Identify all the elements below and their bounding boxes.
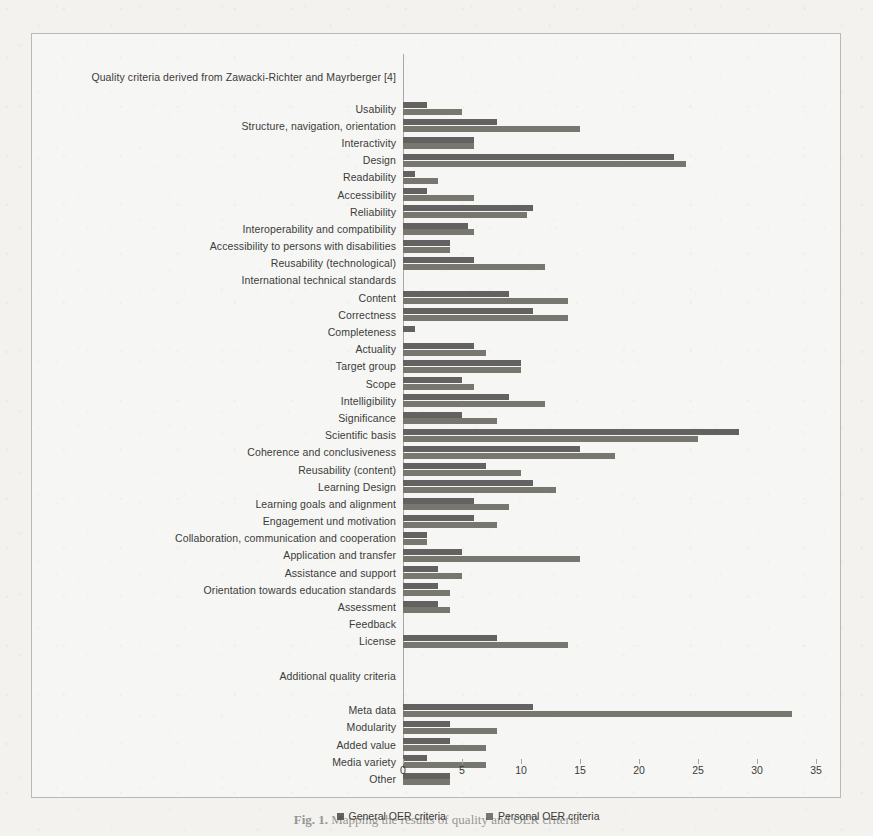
section-header-row: Quality criteria derived from Zawacki-Ri… (403, 54, 816, 100)
bar-personal (403, 745, 486, 751)
bar-personal (403, 384, 474, 390)
bar-general (403, 601, 438, 607)
bar-row: International technical standards (403, 272, 816, 289)
category-label: Assistance and support (285, 567, 396, 579)
x-tick-label-20: 20 (633, 764, 645, 776)
bar-general (403, 583, 438, 589)
bar-general (403, 394, 509, 400)
bar-general (403, 137, 474, 143)
bar-row: Coherence and conclusiveness (403, 444, 816, 461)
figure-page: Quality criteria derived from Zawacki-Ri… (0, 0, 873, 836)
category-label: Scientific basis (325, 429, 396, 441)
figure-caption-label: Fig. 1. (294, 812, 328, 827)
bar-row: Readability (403, 169, 816, 186)
bar-personal (403, 315, 568, 321)
bar-personal (403, 556, 580, 562)
category-label: Reusability (content) (298, 464, 396, 476)
bar-rows: Quality criteria derived from Zawacki-Ri… (403, 54, 816, 759)
bar-general (403, 412, 462, 418)
bar-general (403, 480, 533, 486)
category-label: Additional quality criteria (279, 670, 396, 682)
x-tick-label-5: 5 (459, 764, 465, 776)
bar-personal (403, 539, 427, 545)
category-label: Significance (338, 412, 396, 424)
bar-general (403, 308, 533, 314)
bar-row: Added value (403, 736, 816, 753)
bar-personal (403, 728, 497, 734)
bar-personal (403, 504, 509, 510)
category-label: Assessment (338, 601, 396, 613)
category-label: Other (369, 773, 396, 785)
bar-personal (403, 264, 545, 270)
category-label: Orientation towards education standards (204, 584, 396, 596)
bar-row: Scientific basis (403, 427, 816, 444)
bar-personal (403, 573, 462, 579)
category-label: Scope (366, 378, 396, 390)
category-label: Actuality (355, 343, 396, 355)
chart-frame: Quality criteria derived from Zawacki-Ri… (31, 33, 841, 798)
category-label: Completeness (328, 326, 396, 338)
bar-personal (403, 350, 486, 356)
bar-general (403, 240, 450, 246)
category-label: Content (359, 292, 396, 304)
bar-personal (403, 607, 450, 613)
bar-personal (403, 367, 521, 373)
bar-row: Usability (403, 100, 816, 117)
category-label: Accessibility (338, 189, 396, 201)
bar-personal (403, 436, 698, 442)
category-label: Correctness (338, 309, 396, 321)
bar-row: Meta data (403, 702, 816, 719)
bar-general (403, 188, 427, 194)
bar-personal (403, 161, 686, 167)
bar-personal (403, 247, 450, 253)
category-label: Reliability (350, 206, 396, 218)
bar-row: Structure, navigation, orientation (403, 117, 816, 134)
spacer-row (403, 684, 816, 701)
bar-personal (403, 401, 545, 407)
bar-general (403, 549, 462, 555)
figure-caption-text: Mapping the results of quality and OER c… (331, 812, 579, 827)
bar-personal (403, 298, 568, 304)
bar-row: Application and transfer (403, 547, 816, 564)
bar-row: License (403, 633, 816, 650)
bar-row: Engagement und motivation (403, 513, 816, 530)
bar-row: Completeness (403, 323, 816, 340)
bar-general (403, 498, 474, 504)
category-label: Added value (337, 739, 396, 751)
bar-general (403, 635, 497, 641)
bar-row: Modularity (403, 719, 816, 736)
spacer-row (403, 650, 816, 667)
bar-personal (403, 195, 474, 201)
x-tick-label-15: 15 (574, 764, 586, 776)
category-label: Reusability (technological) (271, 257, 396, 269)
bar-general (403, 154, 674, 160)
category-label: Learning Design (318, 481, 396, 493)
bar-row: Intelligibility (403, 392, 816, 409)
bar-general (403, 704, 533, 710)
bar-row: Design (403, 152, 816, 169)
category-label: Target group (336, 360, 396, 372)
bar-general (403, 102, 427, 108)
figure-caption: Fig. 1. Mapping the results of quality a… (0, 812, 873, 828)
bar-row: Assessment (403, 598, 816, 615)
category-label: Feedback (349, 618, 396, 630)
bar-personal (403, 178, 438, 184)
category-label: International technical standards (242, 274, 396, 286)
category-label: Application and transfer (283, 549, 396, 561)
bar-row: Actuality (403, 341, 816, 358)
category-label: Intelligibility (341, 395, 396, 407)
bar-personal (403, 418, 497, 424)
bar-row: Scope (403, 375, 816, 392)
bar-general (403, 205, 533, 211)
bar-personal (403, 642, 568, 648)
category-label: Interactivity (342, 137, 396, 149)
category-label: Design (363, 154, 396, 166)
x-tick-label-25: 25 (692, 764, 704, 776)
bar-personal (403, 470, 521, 476)
bar-row: Significance (403, 409, 816, 426)
bar-personal (403, 487, 556, 493)
category-label: Learning goals and alignment (255, 498, 396, 510)
bar-row: Learning goals and alignment (403, 495, 816, 512)
bar-row: Reusability (content) (403, 461, 816, 478)
bar-row: Interactivity (403, 134, 816, 151)
